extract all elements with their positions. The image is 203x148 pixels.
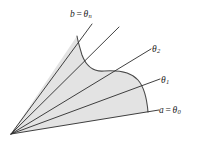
label-theta-2-subscript: 2 <box>157 47 160 54</box>
label-a-equals-theta-0: a=θ0 <box>159 106 181 116</box>
polar-region-figure: b=θn θ2 θ1 a=θ0 <box>0 0 203 148</box>
label-b-equals: = <box>75 9 84 19</box>
shaded-region <box>11 36 148 134</box>
label-b-equals-theta-n: b=θn <box>70 10 92 20</box>
figure-canvas <box>0 0 203 148</box>
label-theta-2: θ2 <box>152 45 160 55</box>
label-b-subscript: n <box>88 12 91 19</box>
label-a-equals: = <box>164 105 173 115</box>
label-theta-1: θ1 <box>161 76 169 86</box>
label-a-subscript: 0 <box>177 108 180 115</box>
label-theta-1-subscript: 1 <box>166 78 169 85</box>
